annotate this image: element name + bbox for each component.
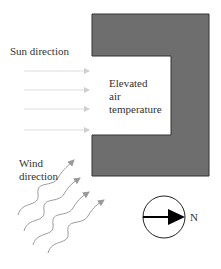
elevated-temp-line-2: air [109, 90, 162, 103]
sun-direction-label: Sun direction [10, 45, 69, 57]
elevated-temp-line-3: temperature [109, 103, 162, 116]
elevated-temp-label: Elevated air temperature [109, 77, 162, 116]
compass-north-label: N [190, 211, 198, 223]
wind-direction-label: Wind direction [19, 157, 58, 183]
diagram-canvas: Sun direction Elevated air temperature W… [0, 0, 221, 269]
wind-label-line-1: Wind [19, 157, 58, 170]
sun-arrows [24, 71, 89, 130]
compass-icon [143, 196, 185, 238]
wind-label-line-2: direction [19, 170, 58, 183]
diagram-graphics [0, 0, 221, 269]
elevated-temp-line-1: Elevated [109, 77, 162, 90]
